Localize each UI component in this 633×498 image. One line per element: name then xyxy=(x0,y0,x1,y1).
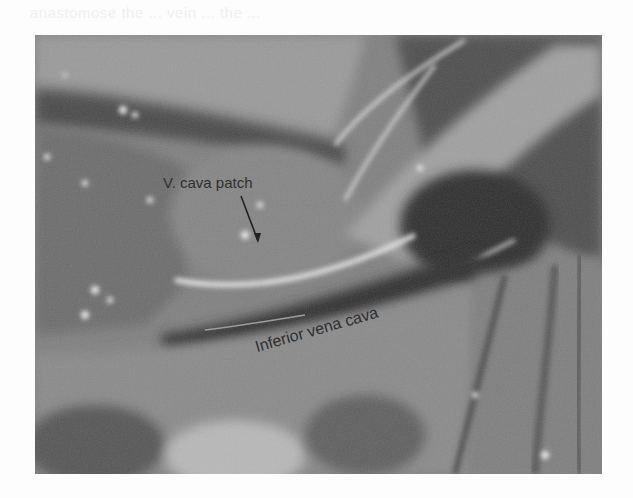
label-v-cava-patch: V. cava patch xyxy=(163,174,253,191)
surgical-photograph xyxy=(35,35,602,474)
bleed-through-text: anastomose the ... vein ... the ... xyxy=(30,4,610,20)
photo-illustration xyxy=(35,35,602,474)
